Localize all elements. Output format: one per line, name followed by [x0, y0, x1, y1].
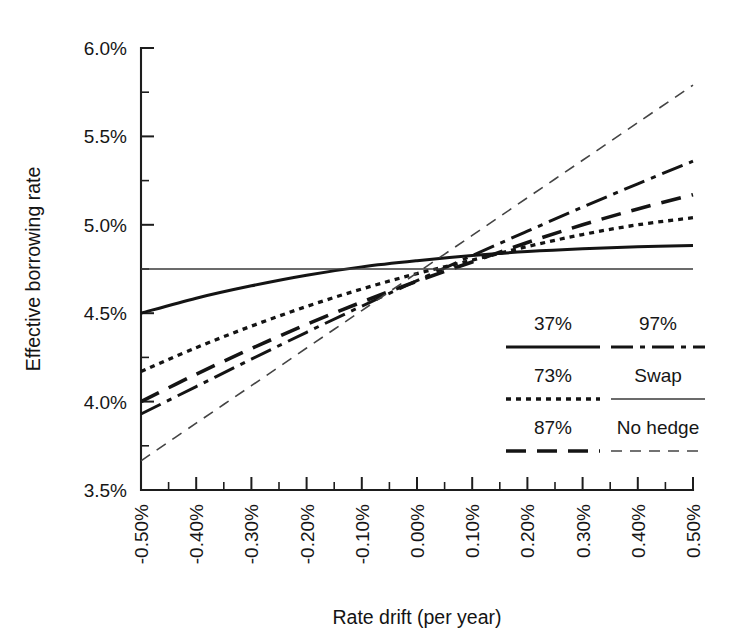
x-axis-title: Rate drift (per year) [332, 606, 501, 628]
chart-legend: 37%73%87%97%SwapNo hedge [506, 313, 705, 451]
series-line-73 [141, 218, 693, 372]
x-tick-label: 0.00% [407, 504, 428, 558]
x-tick-label: 0.20% [517, 504, 538, 558]
x-tick-label: 0.40% [628, 504, 649, 558]
legend-label-no-hedge: No hedge [617, 417, 699, 438]
minor-tick-marks [141, 92, 665, 490]
x-tick-label: 0.10% [462, 504, 483, 558]
series-line-no-hedge [141, 85, 693, 461]
y-tick-label: 6.0% [84, 38, 127, 59]
legend-label-37: 37% [534, 313, 572, 334]
legend-label-swap: Swap [634, 365, 682, 386]
line-chart: 3.5%4.0%4.5%5.0%5.5%6.0% -0.50%-0.40%-0.… [0, 0, 738, 643]
x-tick-label: -0.50% [131, 504, 152, 564]
y-tick-label: 4.0% [84, 392, 127, 413]
x-tick-label: -0.40% [186, 504, 207, 564]
series-line-87 [141, 195, 693, 402]
x-tick-label: 0.50% [683, 504, 704, 558]
x-tick-label: -0.10% [352, 504, 373, 564]
x-tick-label: 0.30% [573, 504, 594, 558]
legend-label-87: 87% [534, 417, 572, 438]
series-lines [141, 85, 693, 461]
y-tick-label: 4.5% [84, 303, 127, 324]
y-tick-label: 3.5% [84, 480, 127, 501]
x-axis-tick-labels: -0.50%-0.40%-0.30%-0.20%-0.10%0.00%0.10%… [131, 504, 704, 564]
y-axis-tick-labels: 3.5%4.0%4.5%5.0%5.5%6.0% [84, 38, 127, 501]
y-tick-label: 5.0% [84, 215, 127, 236]
series-line-97 [141, 161, 693, 414]
x-tick-label: -0.30% [241, 504, 262, 564]
legend-label-97: 97% [639, 313, 677, 334]
y-axis-title: Effective borrowing rate [22, 167, 44, 372]
legend-label-73: 73% [534, 365, 572, 386]
chart-container: 3.5%4.0%4.5%5.0%5.5%6.0% -0.50%-0.40%-0.… [0, 0, 738, 643]
y-tick-label: 5.5% [84, 126, 127, 147]
x-tick-label: -0.20% [297, 504, 318, 564]
